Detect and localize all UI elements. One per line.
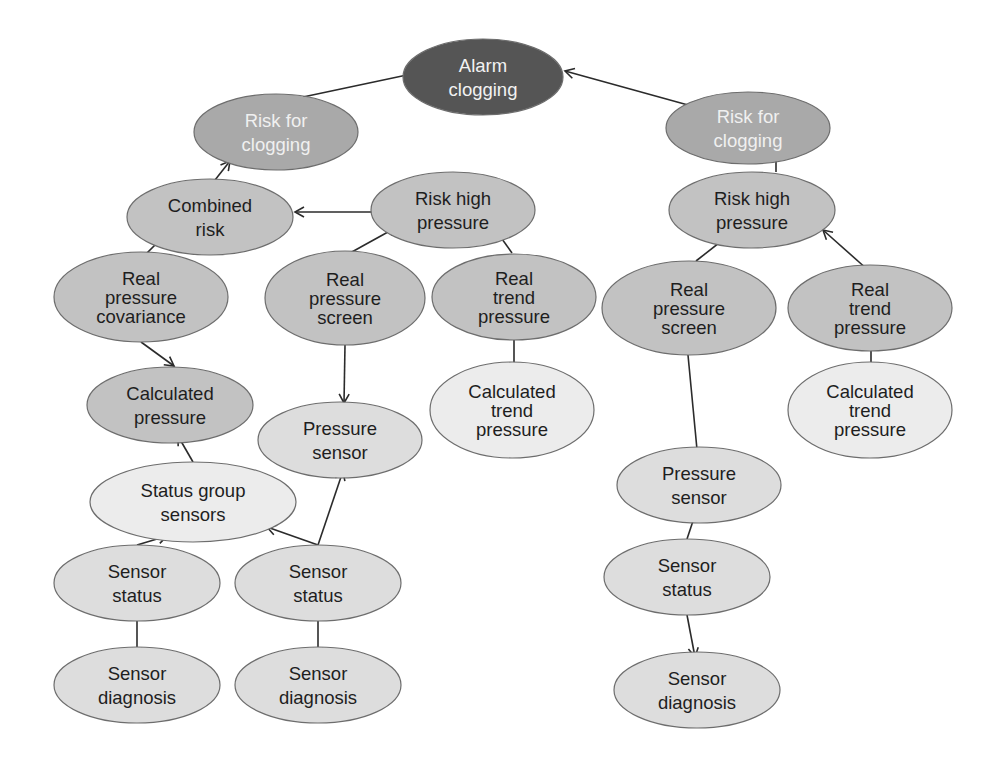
node-ellipse <box>604 539 770 615</box>
node-sensor-diag-2: Sensordiagnosis <box>235 647 401 723</box>
node-label-line: Alarm <box>459 55 507 76</box>
node-label-line: trend <box>849 400 891 421</box>
node-label-line: pressure <box>716 212 788 233</box>
node-ellipse <box>54 647 220 723</box>
node-label-line: trend <box>849 298 891 319</box>
node-label-line: Sensor <box>289 663 348 684</box>
node-risk-clog-r: Risk forclogging <box>666 92 830 164</box>
node-label-line: clogging <box>714 130 783 151</box>
node-label-line: pressure <box>134 407 206 428</box>
node-sensor-diag-r: Sensordiagnosis <box>614 652 780 728</box>
diagram-canvas: AlarmcloggingRisk forcloggingRisk forclo… <box>0 0 998 764</box>
edge-sensor-status-r-to-sensor-diag-r <box>687 615 695 657</box>
node-pressure-sensor-r: Pressuresensor <box>617 447 781 523</box>
node-label-line: sensor <box>671 487 727 508</box>
node-label-line: sensor <box>312 442 368 463</box>
node-label-line: Risk high <box>415 188 491 209</box>
node-label-line: Risk high <box>714 188 790 209</box>
node-sensor-status-r: Sensorstatus <box>604 539 770 615</box>
node-label-line: Sensor <box>108 561 167 582</box>
node-label-line: status <box>112 585 161 606</box>
node-label-line: pressure <box>653 298 725 319</box>
edge-real-screen-l-to-pressure-sensor-l <box>344 345 345 403</box>
node-real-cov: Realpressurecovariance <box>54 252 228 342</box>
node-label-line: pressure <box>417 212 489 233</box>
node-ellipse <box>194 94 358 170</box>
edge-real-screen-r-to-pressure-sensor-r <box>688 355 698 460</box>
node-label-line: Combined <box>168 195 252 216</box>
node-sensor-status-1: Sensorstatus <box>54 545 220 621</box>
node-label-line: Pressure <box>303 418 377 439</box>
node-label-line: risk <box>196 219 226 240</box>
node-ellipse <box>669 172 835 248</box>
node-label-line: trend <box>491 400 533 421</box>
node-ellipse <box>235 545 401 621</box>
node-label-line: trend <box>493 287 535 308</box>
node-label-line: status <box>662 579 711 600</box>
node-label-line: sensors <box>161 504 226 525</box>
node-sensor-status-2: Sensorstatus <box>235 545 401 621</box>
node-label-line: pressure <box>476 419 548 440</box>
node-label-line: Calculated <box>826 381 913 402</box>
node-ellipse <box>614 652 780 728</box>
node-label-line: Real <box>122 268 160 289</box>
node-label-line: Sensor <box>108 663 167 684</box>
node-label-line: diagnosis <box>279 687 357 708</box>
node-risk-high-l: Risk highpressure <box>371 172 535 248</box>
node-risk-high-r: Risk highpressure <box>669 172 835 248</box>
node-label-line: clogging <box>449 79 518 100</box>
node-label-line: pressure <box>834 317 906 338</box>
node-label-line: clogging <box>242 134 311 155</box>
node-ellipse <box>666 92 830 164</box>
node-label-line: Sensor <box>289 561 348 582</box>
node-real-trend-r: Realtrendpressure <box>788 265 952 351</box>
node-real-trend-l: Realtrendpressure <box>432 254 596 340</box>
node-label-line: Risk for <box>717 106 780 127</box>
edge-combined-risk-to-risk-clog-l <box>215 161 230 180</box>
node-ellipse <box>403 39 563 115</box>
node-label-line: screen <box>661 317 717 338</box>
node-ellipse <box>258 402 422 478</box>
node-pressure-sensor-l: Pressuresensor <box>258 402 422 478</box>
node-ellipse <box>90 462 296 542</box>
node-risk-clog-l: Risk forclogging <box>194 94 358 170</box>
node-label-line: pressure <box>478 306 550 327</box>
node-label-line: Sensor <box>658 555 717 576</box>
node-label-line: Pressure <box>662 463 736 484</box>
node-label-line: pressure <box>309 288 381 309</box>
node-label-line: Real <box>851 279 889 300</box>
edge-real-cov-to-calc-pressure <box>141 342 174 366</box>
node-ellipse <box>235 647 401 723</box>
node-label-line: Real <box>670 279 708 300</box>
edge-sensor-status-2-to-status-group <box>267 527 318 545</box>
node-ellipse <box>54 545 220 621</box>
node-calc-pressure: Calculatedpressure <box>87 367 253 443</box>
node-label-line: Sensor <box>668 668 727 689</box>
edge-risk-clog-r-to-alarm <box>565 71 688 105</box>
edge-real-trend-r-to-risk-high-r <box>823 230 868 270</box>
node-status-group: Status groupsensors <box>90 462 296 542</box>
node-label-line: diagnosis <box>98 687 176 708</box>
node-ellipse <box>617 447 781 523</box>
node-label-line: Status group <box>141 480 246 501</box>
node-label-line: covariance <box>96 306 185 327</box>
node-calc-trend-r: Calculatedtrendpressure <box>788 362 952 458</box>
node-label-line: Real <box>495 268 533 289</box>
node-label-line: Calculated <box>468 381 555 402</box>
node-calc-trend-l: Calculatedtrendpressure <box>430 362 594 458</box>
node-ellipse <box>127 179 293 255</box>
node-alarm: Alarmclogging <box>403 39 563 115</box>
node-label-line: diagnosis <box>658 692 736 713</box>
node-ellipse <box>87 367 253 443</box>
node-ellipse <box>371 172 535 248</box>
node-real-screen-l: Realpressurescreen <box>265 251 425 345</box>
node-label-line: Real <box>326 269 364 290</box>
node-label-line: screen <box>317 307 373 328</box>
nodes-layer: AlarmcloggingRisk forcloggingRisk forclo… <box>54 39 952 728</box>
node-combined-risk: Combinedrisk <box>127 179 293 255</box>
node-label-line: pressure <box>834 419 906 440</box>
node-label-line: pressure <box>105 287 177 308</box>
node-label-line: Calculated <box>126 383 213 404</box>
node-label-line: Risk for <box>245 110 308 131</box>
node-sensor-diag-1: Sensordiagnosis <box>54 647 220 723</box>
